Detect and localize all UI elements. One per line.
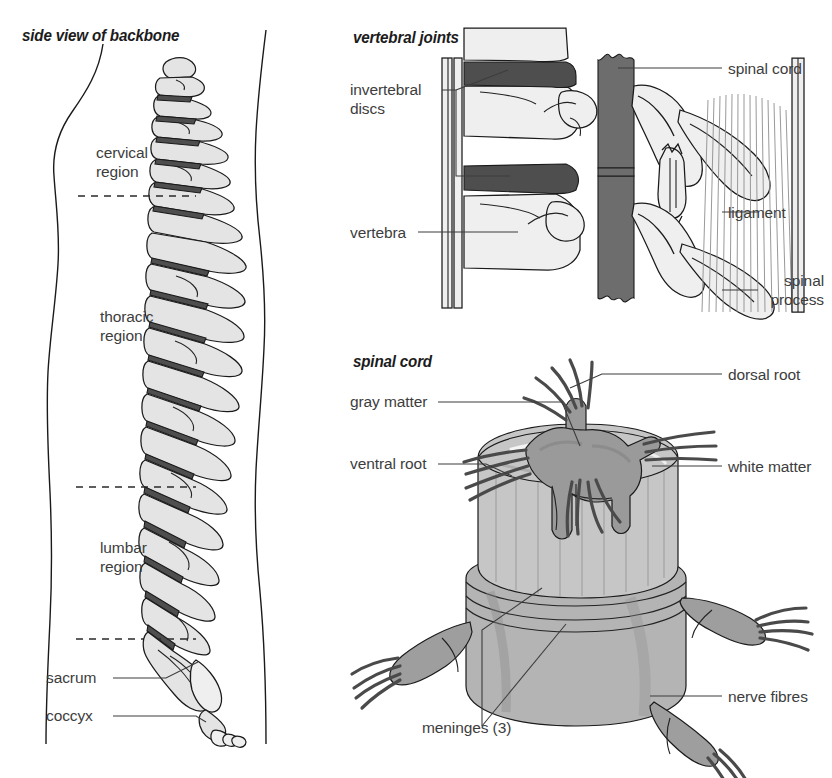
label-thoracic-line2: region	[100, 326, 153, 345]
nerve-sleeve-left	[390, 622, 472, 685]
label-sacrum: sacrum	[46, 668, 96, 687]
label-vertebra: vertebra	[350, 223, 406, 242]
disc-lower	[464, 164, 579, 194]
label-gray-matter: gray matter	[350, 392, 427, 411]
label-lumbar-line1: lumbar	[100, 538, 147, 557]
label-thoracic-region: thoracic region	[100, 307, 153, 345]
label-invertebral-discs: invertebral discs	[350, 80, 421, 118]
panel-spinal-cord: spinal cord	[330, 330, 832, 778]
label-spinal-process-line2: process	[728, 290, 824, 309]
label-spinal-process-line1: spinal	[728, 271, 824, 290]
label-cervical-region: cervical region	[96, 143, 148, 181]
label-meninges: meninges (3)	[422, 718, 511, 737]
interspinous-ligament	[658, 148, 686, 219]
cervical-vertebrae	[148, 58, 242, 244]
label-discs-line2: discs	[350, 99, 421, 118]
nerve-sleeve-right	[680, 598, 765, 645]
label-cervical-line1: cervical	[96, 143, 148, 162]
label-lumbar-line2: region	[100, 557, 147, 576]
label-spinal-cord: spinal cord	[728, 59, 802, 78]
label-discs-line1: invertebral	[350, 80, 421, 99]
label-nerve-fibres: nerve fibres	[728, 687, 808, 706]
nerve-fibres-right	[756, 608, 812, 650]
label-ventral-root: ventral root	[350, 454, 426, 473]
coccyx-bone	[199, 710, 246, 747]
label-coccyx: coccyx	[46, 706, 93, 725]
spinal-cord-band	[598, 54, 634, 168]
disc-upper	[464, 62, 576, 88]
backbone-illustration	[0, 0, 330, 778]
label-lumbar-region: lumbar region	[100, 538, 147, 576]
panel-vertebral-joints: vertebral joints	[330, 0, 832, 330]
label-ligament: ligament	[728, 203, 786, 222]
leader-coccyx	[113, 716, 206, 722]
nerve-fibres-lower-right	[708, 750, 748, 778]
label-dorsal-root: dorsal root	[728, 365, 800, 384]
thoracic-vertebrae	[140, 233, 246, 514]
label-cervical-line2: region	[96, 162, 148, 181]
panel-backbone: side view of backbone	[0, 0, 330, 778]
label-thoracic-line1: thoracic	[100, 307, 153, 326]
label-white-matter: white matter	[728, 457, 811, 476]
label-spinal-process: spinal process	[728, 271, 824, 309]
torso-outline-right	[255, 30, 266, 744]
